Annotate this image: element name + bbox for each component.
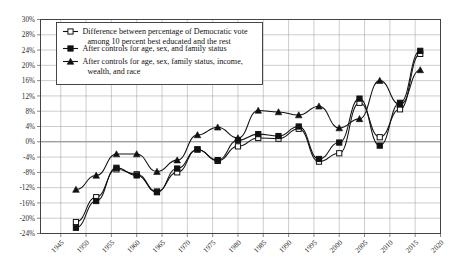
data-marker-open-square — [68, 29, 73, 34]
y-axis-label: -20% — [19, 215, 35, 223]
y-axis-label: 28% — [22, 31, 35, 39]
x-axis-label: 2015 — [404, 238, 420, 254]
x-axis-label: 2000 — [328, 238, 344, 254]
data-marker-filled-square — [357, 96, 362, 101]
x-axis-label: 2020 — [430, 238, 446, 254]
x-axis-label: 1945 — [50, 238, 66, 254]
data-marker-filled-square — [154, 190, 159, 195]
data-marker-filled-square — [256, 132, 261, 137]
y-axis-label: 4% — [25, 123, 35, 131]
legend: Difference between percentage of Democra… — [57, 23, 263, 85]
data-marker-filled-square — [316, 156, 321, 161]
y-axis-label: 30% — [22, 16, 35, 24]
legend-label-continued: wealth, and race — [88, 67, 141, 76]
y-axis-label: -12% — [19, 184, 35, 192]
data-marker-filled-square — [296, 124, 301, 129]
y-axis-label: 16% — [22, 77, 35, 85]
data-marker-filled-square — [337, 140, 342, 145]
x-axis-label: 1970 — [176, 238, 192, 254]
data-marker-filled-square — [418, 48, 423, 53]
data-marker-filled-square — [134, 173, 139, 178]
data-marker-filled-square — [114, 165, 119, 170]
line-chart: 30%28%24%20%16%12%8%4%0%-4%-8%-12%-16%-2… — [0, 0, 453, 269]
x-axis-label: 1980 — [227, 238, 243, 254]
legend-label: After controls for age, sex, and family … — [83, 44, 227, 53]
y-axis-label: 24% — [22, 47, 35, 55]
data-marker-open-square — [73, 219, 78, 224]
x-axis-label: 1990 — [278, 238, 294, 254]
y-axis-label: 20% — [22, 62, 35, 70]
data-marker-open-square — [235, 144, 240, 149]
x-axis-label: 1960 — [126, 238, 142, 254]
y-axis-label: -24% — [19, 230, 35, 238]
data-marker-open-square — [397, 107, 402, 112]
data-marker-filled-square — [68, 46, 73, 51]
legend-label: Difference between percentage of Democra… — [83, 27, 248, 36]
y-axis-label: 12% — [22, 93, 35, 101]
x-axis-label: 1995 — [303, 238, 319, 254]
data-marker-filled-square — [276, 133, 281, 138]
chart-container: 30%28%24%20%16%12%8%4%0%-4%-8%-12%-16%-2… — [0, 0, 453, 269]
x-axis-label: 1965 — [151, 238, 167, 254]
data-marker-filled-square — [215, 158, 220, 163]
data-marker-filled-square — [175, 166, 180, 171]
data-marker-filled-square — [73, 225, 78, 230]
data-marker-filled-square — [195, 147, 200, 152]
data-marker-filled-square — [377, 143, 382, 148]
data-marker-filled-square — [94, 198, 99, 203]
y-axis-label: 0% — [25, 138, 35, 146]
data-marker-open-square — [377, 135, 382, 140]
y-axis-label: -16% — [19, 200, 35, 208]
x-axis-label: 1985 — [252, 238, 268, 254]
y-axis-label: 8% — [25, 108, 35, 116]
x-axis-label: 1955 — [100, 238, 116, 254]
y-axis-label: -8% — [23, 169, 35, 177]
x-axis-label: 2005 — [354, 238, 370, 254]
x-axis-label: 1975 — [202, 238, 218, 254]
data-marker-triangle — [417, 67, 424, 73]
y-axis-label: -4% — [23, 154, 35, 162]
series-line — [76, 70, 420, 190]
legend-label: After controls for age, sex, family stat… — [83, 57, 243, 66]
data-marker-open-square — [337, 151, 342, 156]
x-axis-label: 2010 — [379, 238, 395, 254]
x-axis-label: 1950 — [75, 238, 91, 254]
